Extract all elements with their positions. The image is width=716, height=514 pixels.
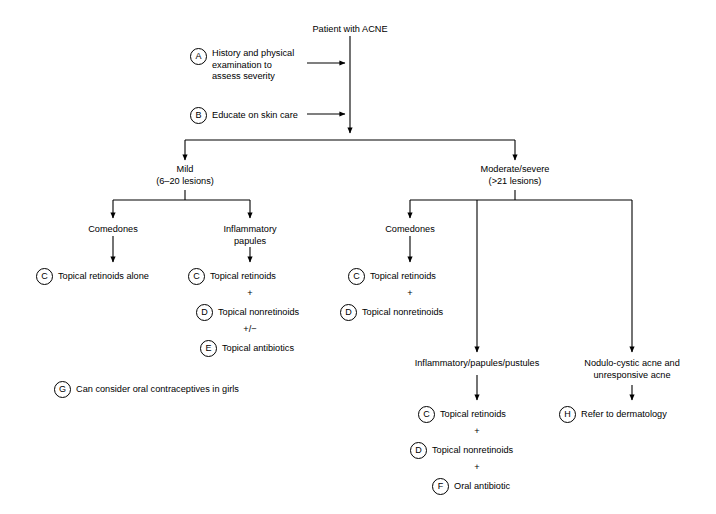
treatment-badge-c: C	[348, 268, 365, 285]
treatment-label: Topical nonretinoids	[432, 445, 513, 456]
branch-moderate-title: Moderate/severe	[481, 164, 550, 176]
mild-inflammatory-connector-2: +/−	[243, 324, 256, 334]
step-a-label: History and physical examination to asse…	[212, 48, 294, 83]
moderate-comedones-treatment-c: C Topical retinoids	[348, 268, 436, 285]
moderate-comedones-connector-1: +	[407, 288, 412, 298]
moderate-inflammatory-connector-1: +	[474, 426, 479, 436]
step-a-line-3: assess severity	[212, 71, 294, 83]
mild-comedones-treatment-c: C Topical retinoids alone	[36, 268, 149, 285]
moderate-inflammatory-label: Inflammatory/papules/pustules	[415, 358, 540, 370]
moderate-inflammatory-treatment-f: F Oral antibiotic	[432, 478, 510, 495]
moderate-comedones-label: Comedones	[385, 224, 435, 236]
mild-inflammatory-treatment-d: D Topical nonretinoids	[196, 304, 299, 321]
step-a-line-1: History and physical	[212, 48, 294, 60]
moderate-inflammatory-connector-2: +	[474, 462, 479, 472]
treatment-badge-e: E	[200, 340, 217, 357]
treatment-badge-c: C	[418, 406, 435, 423]
treatment-label: Topical antibiotics	[222, 343, 294, 354]
treatment-label: Refer to dermatology	[581, 409, 667, 420]
treatment-label: Topical nonretinoids	[218, 307, 299, 318]
treatment-label: Oral antibiotic	[454, 481, 510, 492]
treatment-badge-c: C	[188, 268, 205, 285]
note-g-badge: G	[54, 381, 71, 398]
branch-mild-title: Mild	[177, 164, 194, 176]
moderate-comedones-treatment-d: D Topical nonretinoids	[340, 304, 443, 321]
step-a: A History and physical examination to as…	[190, 48, 294, 83]
branch-moderate-subtitle: (>21 lesions)	[489, 176, 542, 188]
mild-inflammatory-line-2: papules	[234, 236, 266, 248]
treatment-label: Topical retinoids	[210, 271, 276, 282]
treatment-badge-d: D	[196, 304, 213, 321]
moderate-inflammatory-treatment-d: D Topical nonretinoids	[410, 442, 513, 459]
step-b: B Educate on skin care	[190, 107, 298, 124]
moderate-inflammatory-treatment-c: C Topical retinoids	[418, 406, 506, 423]
flowchart-connectors	[0, 0, 716, 514]
branch-mild-subtitle: (6–20 lesions)	[156, 176, 214, 188]
treatment-label: Topical retinoids	[370, 271, 436, 282]
treatment-badge-h: H	[559, 406, 576, 423]
mild-inflammatory-treatment-e: E Topical antibiotics	[200, 340, 294, 357]
root-node-label: Patient with ACNE	[312, 24, 387, 36]
note-g-label: Can consider oral contraceptives in girl…	[76, 384, 239, 396]
treatment-badge-d: D	[340, 304, 357, 321]
nodulocystic-treatment-h: H Refer to dermatology	[559, 406, 667, 423]
nodulocystic-line-1: Nodulo-cystic acne and	[584, 358, 680, 370]
step-b-badge: B	[190, 107, 207, 124]
step-a-badge: A	[190, 48, 207, 65]
mild-inflammatory-line-1: Inflammatory	[223, 224, 276, 236]
mild-comedones-label: Comedones	[88, 224, 138, 236]
step-b-label: Educate on skin care	[212, 110, 298, 121]
treatment-label: Topical retinoids	[440, 409, 506, 420]
mild-inflammatory-treatment-c: C Topical retinoids	[188, 268, 276, 285]
treatment-badge-f: F	[432, 478, 449, 495]
nodulocystic-line-2: unresponsive acne	[593, 370, 670, 382]
treatment-label: Topical nonretinoids	[362, 307, 443, 318]
acne-algorithm-flowchart: Patient with ACNE A History and physical…	[0, 0, 716, 514]
treatment-badge-d: D	[410, 442, 427, 459]
note-g: G Can consider oral contraceptives in gi…	[54, 381, 239, 398]
treatment-badge-c: C	[36, 268, 53, 285]
mild-inflammatory-connector-1: +	[247, 288, 252, 298]
step-a-line-2: examination to	[212, 60, 294, 72]
treatment-label: Topical retinoids alone	[58, 271, 149, 282]
